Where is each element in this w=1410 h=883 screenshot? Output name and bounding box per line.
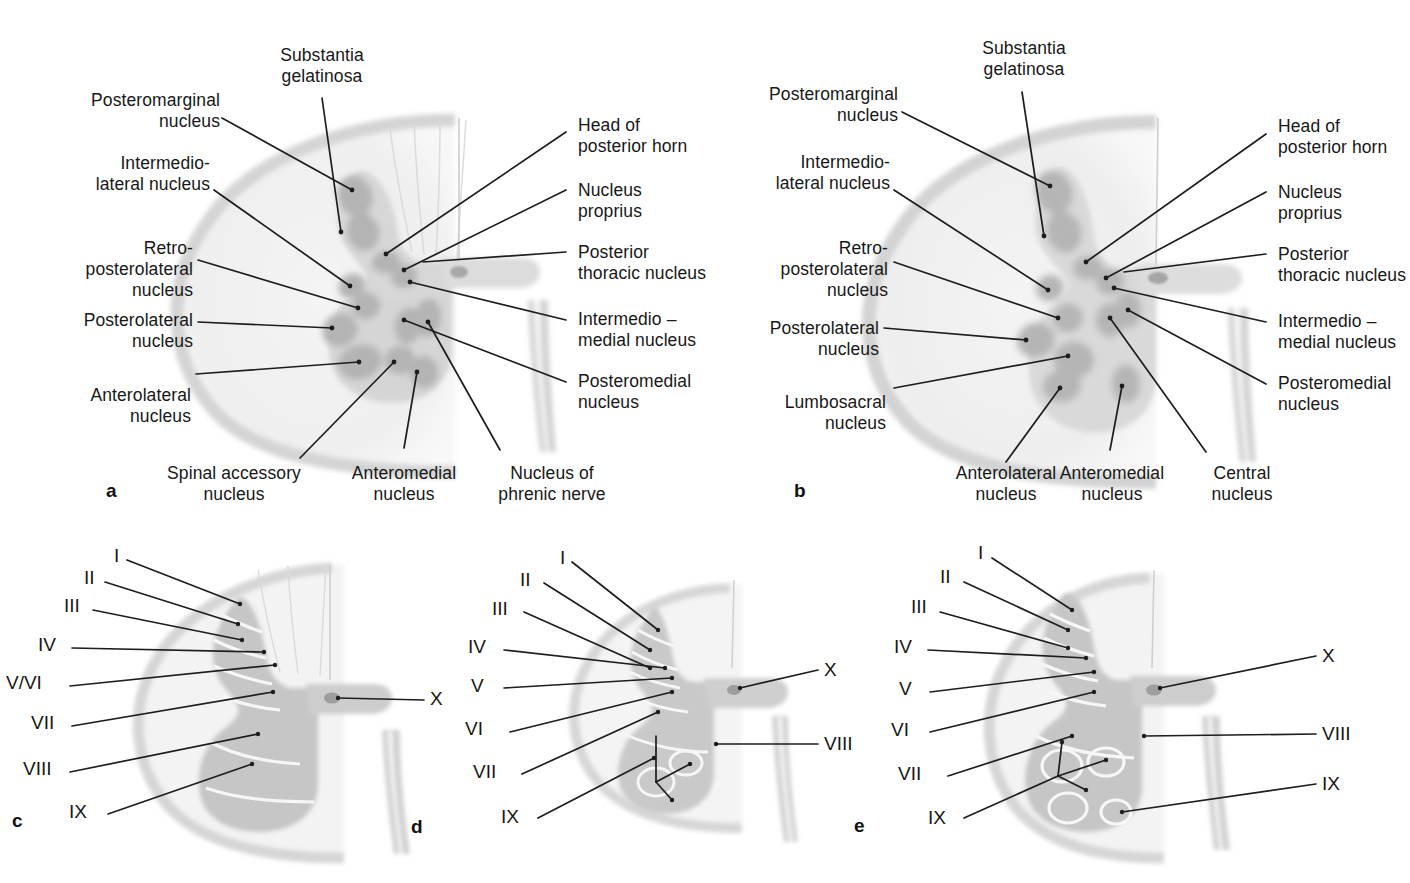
panel-a-label-nucleus-proprius: Nucleus proprius <box>578 180 703 222</box>
panel-d-lamina-I: I <box>560 547 565 568</box>
panel-d-lamina-VI: VI <box>465 718 483 739</box>
panel-d-lamina-IX: IX <box>501 806 519 827</box>
panel-e-lamina-VI: VI <box>891 719 909 740</box>
panel-b-letter: b <box>794 480 806 502</box>
panel-a-label-intermediolateral: Intermedio- lateral nucleus <box>20 153 210 195</box>
panel-d-lamina-IV: IV <box>468 636 486 657</box>
panel-b-label-posteromarginal: Posteromarginal nucleus <box>696 84 898 126</box>
panel-a-label-posteromarginal: Posteromarginal nucleus <box>20 90 220 132</box>
central-canal-a <box>450 266 468 278</box>
panel-e-lamina-V: V <box>899 678 912 699</box>
panel-c-lamina-VIII: VIII <box>23 758 52 779</box>
panel-b-label-central: Central nucleus <box>1184 463 1300 505</box>
panel-e-lamina-IV: IV <box>894 636 912 657</box>
panel-e-lamina-X: X <box>1322 645 1335 666</box>
panel-e-lamina-IX-2: IX <box>1322 773 1340 794</box>
panel-a-letter: a <box>106 480 117 502</box>
panel-b-label-posteromedial: Posteromedial nucleus <box>1278 373 1410 415</box>
panel-a: Posteromarginal nucleus Intermedio- late… <box>0 0 700 520</box>
panel-c-letter: c <box>12 810 23 832</box>
panel-c-lamina-II: II <box>84 567 95 588</box>
panel-c-illustration <box>0 520 462 883</box>
panel-d-lamina-II: II <box>520 569 531 590</box>
nucleus-anteromedial-b <box>1112 365 1140 403</box>
panel-b-label-intermediomedial: Intermedio – medial nucleus <box>1278 311 1410 353</box>
panel-b-label-nucleus-proprius: Nucleus proprius <box>1278 182 1408 224</box>
panel-c: I II III IV V/VI VII VIII IX X c <box>0 520 462 883</box>
panel-e-illustration <box>800 520 1386 883</box>
panel-c-lamina-I: I <box>114 545 119 566</box>
panel-a-label-anterolateral: Anterolateral nucleus <box>10 385 191 427</box>
panel-b-label-retroposterolateral: Retro- posterolateral nucleus <box>696 238 888 301</box>
panel-a-label-substantia-gelatinosa: Substantia gelatinosa <box>242 45 402 87</box>
anterior-median-fissure-e <box>1202 716 1230 852</box>
panel-d-lamina-VII: VII <box>473 761 496 782</box>
panel-c-lamina-IV: IV <box>38 634 56 655</box>
panel-e: I II III IV V VI VII IX X VIII IX e <box>800 520 1386 883</box>
panel-e-lamina-II: II <box>940 566 951 587</box>
panel-c-lamina-IX: IX <box>69 801 87 822</box>
panel-b-label-lumbosacral: Lumbosacral nucleus <box>688 392 886 434</box>
panel-e-lamina-III: III <box>911 596 927 617</box>
panel-b-label-intermediolateral: Intermedio- lateral nucleus <box>696 152 890 194</box>
panel-b-label-posterior-thoracic: Posterior thoracic nucleus <box>1278 244 1410 286</box>
central-canal-b <box>1148 272 1168 284</box>
panel-d-letter: d <box>411 816 423 838</box>
panel-c-lamina-V-VI: V/VI <box>6 672 42 693</box>
anterior-median-fissure-d <box>772 716 798 844</box>
nucleus-anteromedial-a <box>410 356 438 388</box>
posterior-median-sulcus-b <box>1156 118 1158 266</box>
panel-e-letter: e <box>854 815 865 837</box>
panel-c-lamina-VII: VII <box>31 712 54 733</box>
panel-e-lamina-I: I <box>978 542 983 563</box>
panel-a-label-posterolateral: Posterolateral nucleus <box>10 310 193 352</box>
panel-a-label-anteromedial: Anteromedial nucleus <box>330 463 478 505</box>
nucleus-posterior-thoracic-b <box>1096 269 1124 295</box>
panel-e-lamina-IX: IX <box>928 807 946 828</box>
panel-b: Posteromarginal nucleus Intermedio- late… <box>686 0 1386 520</box>
panel-d-lamina-III: III <box>492 598 508 619</box>
panel-a-label-spinal-accessory: Spinal accessory nucleus <box>155 463 313 505</box>
panel-e-lamina-VIII: VIII <box>1322 723 1351 744</box>
panel-b-label-anteromedial: Anteromedial nucleus <box>1038 463 1186 505</box>
panel-b-label-posterolateral: Posterolateral nucleus <box>688 318 879 360</box>
panel-b-label-head-posterior-horn: Head of posterior horn <box>1278 116 1410 158</box>
panel-d-lamina-V: V <box>471 675 484 696</box>
anterior-median-fissure-b <box>1228 308 1256 464</box>
panel-a-label-nucleus-phrenic: Nucleus of phrenic nerve <box>482 463 622 505</box>
panel-a-label-retroposterolateral: Retro- posterolateral nucleus <box>20 238 193 301</box>
panel-e-lamina-VII: VII <box>898 763 921 784</box>
panel-b-label-substantia-gelatinosa: Substantia gelatinosa <box>944 38 1104 80</box>
panel-c-lamina-III: III <box>64 595 80 616</box>
